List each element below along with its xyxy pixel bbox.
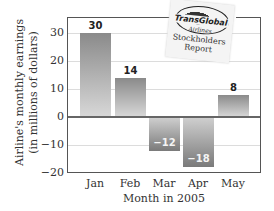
transglobal-logo: TransGlobal Airlines Stockholders Report bbox=[165, 0, 235, 63]
x-tick-jan: Jan bbox=[78, 177, 112, 190]
y-axis-label-line1: Airline's monthly earnings bbox=[13, 19, 26, 166]
y-tick-neg10: −10 bbox=[38, 138, 64, 151]
x-axis-label: Month in 2005 bbox=[67, 192, 261, 205]
x-tick-apr: Apr bbox=[181, 177, 215, 190]
y-tick-0: 0 bbox=[38, 110, 64, 123]
x-tick-mar: Mar bbox=[147, 177, 181, 190]
y-tick-neg20: −20 bbox=[38, 166, 64, 179]
plot-frame bbox=[67, 17, 261, 173]
y-tick-30: 30 bbox=[38, 26, 64, 39]
plot-frame-top-right bbox=[236, 17, 261, 18]
y-tick-20: 20 bbox=[38, 54, 64, 67]
logo-caption: Stockholders Report bbox=[168, 32, 230, 56]
plot-frame-top-left bbox=[67, 17, 171, 18]
x-tick-feb: Feb bbox=[113, 177, 147, 190]
y-axis-label: Airline's monthly earnings (in millions … bbox=[2, 20, 42, 170]
y-tick-10: 10 bbox=[38, 82, 64, 95]
x-tick-may: May bbox=[216, 177, 250, 190]
